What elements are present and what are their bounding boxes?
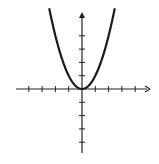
parabola-chart <box>0 0 159 164</box>
axes <box>16 12 150 153</box>
y-axis-arrow-icon <box>79 12 85 18</box>
